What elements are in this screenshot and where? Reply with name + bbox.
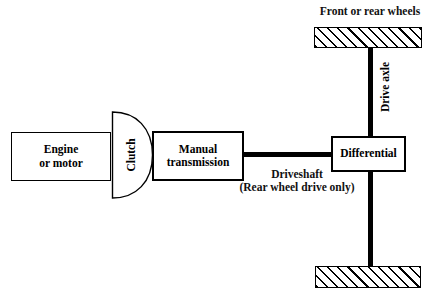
differential-block: Differential <box>331 136 406 172</box>
wheel-bar-top <box>314 27 422 48</box>
driveshaft-label-line2: (Rear wheel drive only) <box>222 181 372 194</box>
drivetrain-diagram: Engine or motor Clutch Manual transmissi… <box>0 0 433 302</box>
driveshaft-line <box>242 152 334 157</box>
transmission-label-line1: Manual <box>167 143 230 156</box>
clutch-block <box>106 106 160 204</box>
engine-block: Engine or motor <box>11 132 111 181</box>
wheel-bar-bottom <box>315 266 421 288</box>
drive-axle-label-wrap: Drive axle <box>350 52 420 122</box>
wheels-label: Front or rear wheels <box>310 5 430 18</box>
engine-label-line2: or motor <box>39 157 83 170</box>
transmission-label-line2: transmission <box>167 156 230 169</box>
differential-label: Differential <box>340 147 397 160</box>
engine-label-line1: Engine <box>39 143 83 156</box>
clutch-shape-icon <box>106 106 160 204</box>
manual-transmission-block: Manual transmission <box>152 131 244 181</box>
drive-axle-label: Drive axle <box>379 62 391 112</box>
